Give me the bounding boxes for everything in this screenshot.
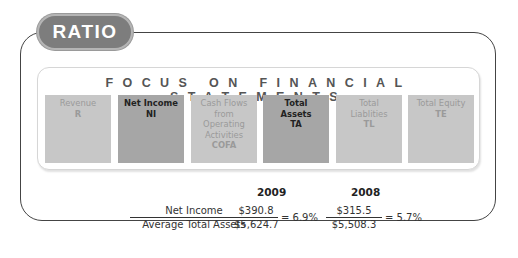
- statement-abbr: TE: [408, 109, 474, 120]
- statement-name: Net Income: [124, 98, 178, 108]
- numerator-2009: $390.8: [234, 205, 278, 218]
- result-2008: = 5.7%: [385, 212, 422, 223]
- statement-name: Total Liablities: [336, 98, 402, 119]
- statement-name: Total Assets: [263, 98, 329, 119]
- year-label-2008: 2008: [351, 186, 380, 198]
- denominator-2008: $5,508.3: [326, 218, 382, 230]
- statement-box-total-equity: Total Equity TE: [408, 95, 474, 163]
- numerator-2008: $315.5: [326, 205, 382, 218]
- statement-box-total-assets: Total Assets TA: [263, 95, 329, 163]
- statement-abbr: TA: [263, 119, 329, 130]
- formula-2009: $390.8 $5,624.7: [234, 205, 278, 230]
- statement-box-net-income: Net Income NI: [118, 95, 184, 163]
- formula-2008: $315.5 $5,508.3: [326, 205, 382, 230]
- statement-name: Total Equity: [417, 98, 466, 108]
- statement-abbr: NI: [118, 109, 184, 120]
- statement-abbr: R: [45, 109, 111, 120]
- ratio-badge: RATIO: [37, 14, 133, 50]
- ratio-badge-label: RATIO: [52, 21, 117, 43]
- statement-abbr: COFA: [191, 140, 257, 151]
- result-2009: = 6.9%: [281, 212, 318, 223]
- denominator-2009: $5,624.7: [234, 218, 278, 230]
- statement-box-cash-flows: Cash Flows from Operating Activities COF…: [191, 95, 257, 163]
- statement-box-total-liabilities: Total Liablities TL: [336, 95, 402, 163]
- statement-box-revenue: Revenue R: [45, 95, 111, 163]
- statement-abbr: TL: [336, 119, 402, 130]
- statement-name: Cash Flows from Operating Activities: [191, 98, 257, 140]
- statement-name: Revenue: [60, 98, 96, 108]
- year-label-2009: 2009: [257, 186, 286, 198]
